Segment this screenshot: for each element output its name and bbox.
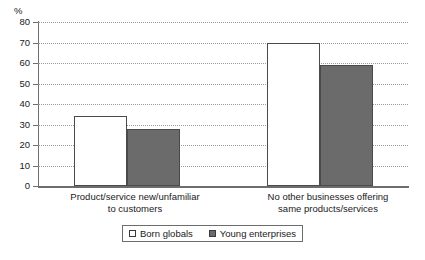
y-axis-tick-label: 70: [4, 38, 30, 48]
gridline: [38, 63, 408, 64]
y-axis-tick: [33, 145, 38, 146]
x-axis-category-label: No other businesses offeringsame product…: [228, 191, 425, 214]
y-axis-tick-label: 50: [4, 79, 30, 89]
gray-square-swatch-icon: [209, 230, 216, 237]
y-axis-tick-label: 80: [4, 17, 30, 27]
y-axis-tick-label: 20: [4, 140, 30, 150]
bar-born-globals: [74, 116, 127, 186]
legend-item-born-globals: Born globals: [129, 229, 193, 239]
bar-young-enterprises: [320, 65, 373, 186]
y-axis-tick-label: 10: [4, 161, 30, 171]
category-label-line: same products/services: [228, 203, 425, 215]
y-axis-tick: [33, 84, 38, 85]
y-axis-tick: [33, 63, 38, 64]
x-axis-category-label: Product/service new/unfamiliarto custome…: [35, 191, 235, 214]
white-square-swatch-icon: [129, 230, 136, 237]
y-axis-tick: [33, 43, 38, 44]
bar-young-enterprises: [127, 129, 180, 186]
gridline: [38, 22, 408, 23]
x-axis-line: [38, 186, 409, 188]
y-axis-unit-label: %: [14, 5, 22, 16]
legend-item-young-enterprises: Young enterprises: [209, 229, 296, 239]
gridline: [38, 43, 408, 44]
y-axis-tick-label: 0: [4, 181, 30, 191]
category-label-line: to customers: [35, 203, 235, 215]
category-label-line: No other businesses offering: [228, 191, 425, 203]
chart-legend: Born globals Young enterprises: [122, 225, 303, 242]
plot-area: [38, 22, 408, 186]
y-axis-tick: [33, 22, 38, 23]
category-label-line: Product/service new/unfamiliar: [35, 191, 235, 203]
y-axis-tick-label: 60: [4, 58, 30, 68]
legend-label: Young enterprises: [220, 229, 296, 239]
y-axis-tick: [33, 166, 38, 167]
legend-label: Born globals: [140, 229, 193, 239]
y-axis-tick-label: 30: [4, 120, 30, 130]
bar-born-globals: [267, 43, 320, 187]
y-axis-tick: [33, 104, 38, 105]
y-axis-tick: [33, 125, 38, 126]
bar-chart: % 80706050403020100 Product/service new/…: [0, 0, 425, 260]
y-axis-tick: [33, 186, 38, 187]
y-axis-tick-label: 40: [4, 99, 30, 109]
